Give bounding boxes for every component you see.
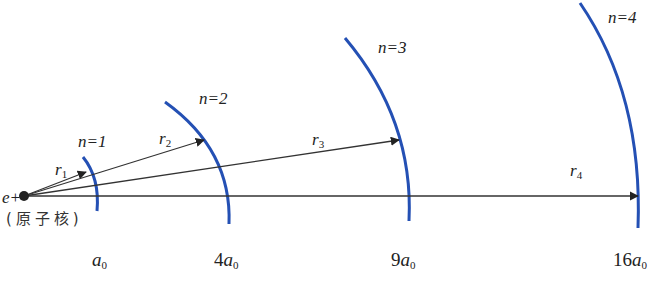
nucleus-label: e+ [2, 189, 21, 206]
axis-label-4a0: 4a0 [214, 250, 239, 271]
orbit-arc-2 [165, 102, 229, 224]
orbit-n-label-3: n=3 [378, 39, 406, 56]
bohr-orbit-diagram: e+ (原子核) n=1 n=2 n=3 n=4 r1 r2 r3 r4 a0 … [0, 0, 660, 282]
axis-label-a0: a0 [92, 250, 107, 271]
radius-arrow-r2 [24, 140, 204, 196]
radius-label-r3: r3 [312, 131, 324, 150]
orbit-arc-4 [580, 3, 638, 228]
orbit-n-label-2: n=2 [199, 90, 227, 107]
orbit-n-label-4: n=4 [608, 9, 636, 26]
orbit-arc-1 [83, 157, 97, 211]
orbit-arc-3 [345, 38, 409, 221]
axis-label-16a0: 16a0 [613, 250, 647, 271]
radius-label-r1: r1 [55, 161, 67, 180]
orbit-n-label-1: n=1 [78, 133, 106, 150]
radius-label-r4: r4 [570, 162, 582, 181]
nucleus-caption: (原子核) [6, 212, 83, 227]
axis-label-9a0: 9a0 [391, 250, 416, 271]
radius-label-r2: r2 [159, 130, 171, 149]
